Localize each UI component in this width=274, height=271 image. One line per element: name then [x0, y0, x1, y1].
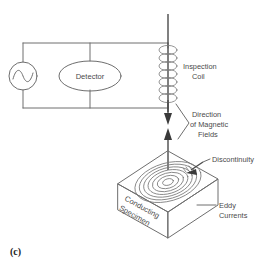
- magnetic-fields-label-line-1: Direction: [192, 110, 221, 119]
- eddy-ring-5: [140, 162, 196, 203]
- field-arrow-down-head: [164, 113, 172, 125]
- discontinuity-arrow-shaft: [191, 162, 203, 170]
- ac-source: [9, 62, 37, 90]
- magnetic-field-arrows: [164, 100, 172, 170]
- inspection-coil: [159, 14, 177, 112]
- magnetic-fields-leader: [176, 104, 189, 139]
- eddy-currents-label-line-2: Currents: [219, 211, 248, 220]
- detector: Detector: [59, 61, 121, 91]
- eddy-ring-1: [162, 177, 174, 186]
- magnetic-fields-leader-line: [176, 104, 189, 139]
- magnetic-fields-label: Direction of Magnetic Fields: [190, 110, 229, 139]
- inspection-coil-label-line-2: Coil: [192, 72, 205, 81]
- figure-caption: (c): [10, 246, 21, 258]
- magnetic-fields-label-line-3: Fields: [198, 130, 218, 139]
- eddy-ring-3: [150, 169, 186, 195]
- discontinuity-label: Discontinuity: [212, 155, 254, 164]
- eddy-currents-label: Eddy Currents: [219, 201, 248, 220]
- inspection-coil-label: Inspection Coil: [183, 62, 217, 81]
- specimen-front-right-face: [168, 179, 218, 238]
- eddy-currents-label-line-1: Eddy: [219, 201, 236, 210]
- eddy-ring-4: [145, 165, 191, 199]
- field-arrow-up-head: [164, 128, 172, 140]
- eddy-current-inspection-diagram: Detector Inspection Coil: [0, 0, 274, 271]
- sine-wave-icon: [13, 70, 33, 81]
- detector-label: Detector: [76, 72, 105, 81]
- inspection-coil-label-line-1: Inspection: [183, 62, 217, 71]
- magnetic-fields-label-line-2: of Magnetic: [190, 120, 229, 129]
- discontinuity-leader-line: [203, 159, 210, 162]
